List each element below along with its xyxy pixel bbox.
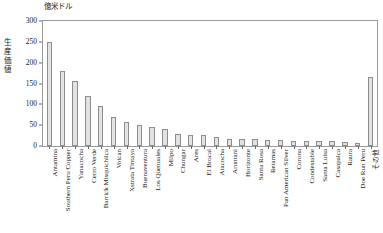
bar — [137, 125, 142, 146]
bar-slot — [159, 21, 172, 146]
bar-slot — [223, 21, 236, 146]
y-tick-label: 100 — [26, 100, 37, 108]
bar — [124, 122, 129, 146]
x-tick-label: Xstrata Tintaya — [129, 149, 136, 192]
bar-slot — [351, 21, 364, 146]
bar — [239, 139, 244, 146]
y-tick-label: 0 — [33, 142, 37, 150]
x-tick-label: El Brocal — [206, 149, 213, 176]
bar — [201, 135, 206, 146]
x-tick-label: Ares — [193, 149, 200, 162]
bar-slot — [313, 21, 326, 146]
x-tick-label: Doe Run Peru — [360, 149, 367, 189]
bar-slot — [184, 21, 197, 146]
bar — [60, 71, 65, 146]
bar — [214, 137, 219, 146]
x-tick-label: Milpo — [168, 149, 175, 166]
bar-slot — [287, 21, 300, 146]
bar-slot — [249, 21, 262, 146]
y-axis-ticks: 050100150200250300 — [0, 0, 42, 147]
bar-slot — [94, 21, 107, 146]
bar-slot — [69, 21, 82, 146]
x-tick-label: Condestable — [309, 149, 316, 184]
x-tick-label: Volcan — [116, 149, 123, 168]
bar-chart: 億米ドル 生産価値 050100150200250300 AntaminaSou… — [0, 0, 383, 233]
x-tick-label: Barrick Misquichilca — [103, 149, 110, 208]
x-tick-label: Buenaventura — [142, 149, 149, 188]
bar-slot — [197, 21, 210, 146]
bar — [175, 134, 180, 146]
x-tick-label: Horizonte — [245, 149, 252, 177]
bar-slot — [133, 21, 146, 146]
bar-slot — [120, 21, 133, 146]
x-tick-label: Los Quenuales — [155, 149, 162, 191]
bar — [252, 139, 257, 146]
bar-slot — [364, 21, 377, 146]
bar — [85, 96, 90, 146]
bar — [149, 127, 154, 146]
bar-slot — [210, 21, 223, 146]
bar-slot — [146, 21, 159, 146]
x-tick-label: Santa Luisa — [322, 149, 329, 182]
bars-layer — [43, 21, 377, 146]
y-tick-label: 250 — [26, 38, 37, 46]
bar-slot — [300, 21, 313, 146]
unit-caption: 億米ドル — [44, 2, 72, 12]
bar-slot — [338, 21, 351, 146]
x-tick-label: Santa Rosa — [258, 149, 265, 180]
x-tick-label: Pan American Silver — [283, 149, 290, 207]
bar — [72, 81, 77, 146]
x-tick-label: Casapalca — [335, 149, 342, 177]
bar — [162, 129, 167, 147]
x-tick-label: その他 — [373, 149, 380, 170]
x-tick-label: Raura — [347, 149, 354, 166]
x-tick-label: Antamina — [52, 149, 59, 177]
bar — [98, 106, 103, 146]
bar-slot — [171, 21, 184, 146]
bar-slot — [261, 21, 274, 146]
bar-slot — [274, 21, 287, 146]
x-tick-label: Retamas — [270, 149, 277, 173]
bar — [47, 42, 52, 146]
x-tick-label: Yanacocha — [78, 149, 85, 179]
bar-slot — [107, 21, 120, 146]
bar — [368, 77, 373, 146]
x-tick-label: Atacocha — [219, 149, 226, 175]
bar-slot — [56, 21, 69, 146]
x-tick-label: Corona — [296, 149, 303, 170]
x-axis-labels: AntaminaSouthern Peru CopperYanacochaCer… — [43, 149, 377, 233]
y-tick-label: 50 — [30, 121, 38, 129]
bar-slot — [82, 21, 95, 146]
x-tick-label: Cerro Verde — [91, 149, 98, 183]
x-tick-label: Chungar — [180, 149, 187, 173]
x-tick-label: Southern Peru Copper — [65, 149, 72, 211]
y-tick-label: 150 — [26, 80, 37, 88]
y-tick-label: 200 — [26, 59, 37, 67]
bar — [227, 139, 232, 146]
bar-slot — [236, 21, 249, 146]
bar-slot — [43, 21, 56, 146]
x-tick-label: Aruntani — [232, 149, 239, 174]
bar — [188, 135, 193, 146]
y-tick-label: 300 — [26, 17, 37, 25]
bar-slot — [326, 21, 339, 146]
bar — [111, 117, 116, 146]
